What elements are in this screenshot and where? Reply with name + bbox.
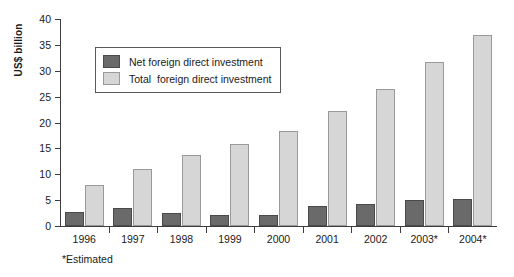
- legend-label-total: Total foreign direct investment: [129, 73, 271, 85]
- bar-total: [328, 111, 347, 226]
- y-axis-tick-label: 35: [21, 39, 51, 51]
- x-axis-tick-label: 2003*: [400, 233, 449, 247]
- x-axis-labels: 19961997199819992000200120022003*2004*: [60, 233, 497, 247]
- legend: Net foreign direct investment Total fore…: [95, 47, 281, 93]
- bar-net: [405, 200, 424, 226]
- bar-net: [65, 212, 84, 226]
- bar-total: [425, 62, 444, 226]
- x-axis-tick-label: 1997: [109, 233, 158, 247]
- bar-group: [351, 19, 400, 226]
- x-axis-line: [60, 226, 497, 227]
- footnote: *Estimated: [62, 253, 113, 265]
- legend-item-total: Total foreign direct investment: [103, 70, 271, 87]
- bar-net: [162, 213, 181, 226]
- x-axis-tick-label: 2000: [254, 233, 303, 247]
- bar-total: [279, 131, 298, 226]
- bar-total: [376, 89, 395, 226]
- y-axis-tick-label: 0: [21, 220, 51, 232]
- bar-net: [356, 204, 375, 226]
- y-axis-tick-label: 5: [21, 194, 51, 206]
- x-axis-tick-label: 2002: [351, 233, 400, 247]
- y-axis-tick-label: 20: [21, 117, 51, 129]
- x-axis-tick-label: 1999: [206, 233, 255, 247]
- bar-total: [133, 169, 152, 226]
- bar-net: [210, 215, 229, 226]
- bar-chart: US$ billion 0510152025303540 19961997199…: [0, 0, 514, 277]
- bar-total: [230, 144, 249, 226]
- bar-group: [449, 19, 498, 226]
- bar-group: [400, 19, 449, 226]
- bar-group: [303, 19, 352, 226]
- x-axis-tick-label: 2001: [303, 233, 352, 247]
- y-axis-tick-label: 15: [21, 142, 51, 154]
- bar-net: [259, 215, 278, 226]
- legend-swatch-net-icon: [103, 55, 120, 68]
- legend-label-net: Net foreign direct investment: [129, 56, 263, 68]
- x-axis-tick-label: 2004*: [449, 233, 498, 247]
- bar-total: [473, 35, 492, 226]
- bar-total: [85, 185, 104, 226]
- bar-net: [453, 199, 472, 226]
- legend-item-net: Net foreign direct investment: [103, 53, 271, 70]
- x-axis-tick-label: 1998: [157, 233, 206, 247]
- legend-swatch-total-icon: [103, 72, 120, 85]
- x-axis-tick-label: 1996: [60, 233, 109, 247]
- y-axis-tick-label: 40: [21, 13, 51, 25]
- y-axis-tick-label: 30: [21, 65, 51, 77]
- bar-net: [308, 206, 327, 226]
- y-axis-tick-label: 25: [21, 91, 51, 103]
- bar-total: [182, 155, 201, 226]
- y-axis-tick-mark: [55, 226, 60, 227]
- y-axis-tick-label: 10: [21, 168, 51, 180]
- bar-net: [113, 208, 132, 226]
